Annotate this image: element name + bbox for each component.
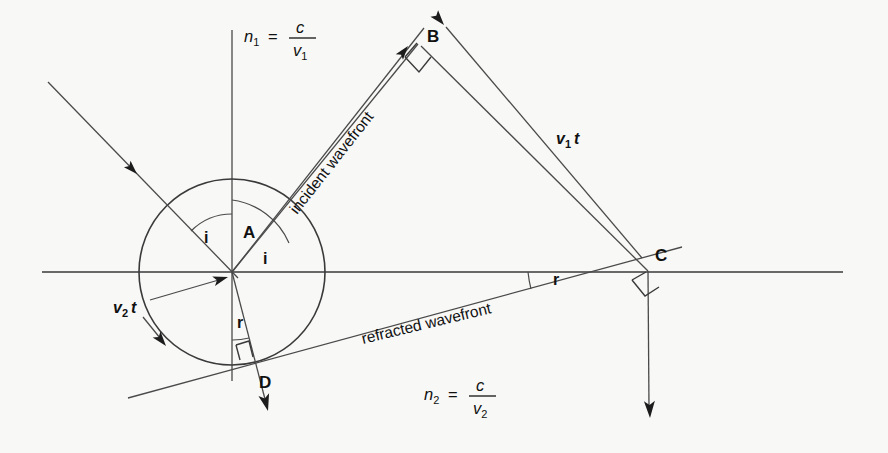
refraction-diagram-canvas: A B C D i i r r incident wavefront refra… [0, 0, 888, 453]
refracted-ray-at-C-arrowhead [644, 401, 656, 418]
incident-ray-to-B-line [232, 28, 424, 272]
v1t-measure-arrow-line [446, 27, 642, 258]
formula-n1-group: n1 = c v1 [244, 18, 316, 62]
refracted-wavefront-label-group: refracted wavefront [360, 299, 494, 347]
v1t-suffix: t [574, 130, 580, 147]
angle-label-i-right: i [263, 250, 267, 267]
formula-n2-equals: = [448, 385, 458, 403]
formula-n2-group: n2 = c v2 [424, 376, 496, 420]
v1t-subscript: 1 [565, 138, 571, 150]
point-label-A: A [243, 223, 255, 242]
angle-label-r-right: r [553, 271, 559, 288]
formula-n2-denominator: v2 [473, 399, 487, 420]
point-label-B: B [427, 27, 439, 46]
refracted-ray-at-C-line [648, 271, 649, 409]
v1t-measure-arrowhead [430, 10, 447, 28]
refracted-ray-AD-arrowhead [258, 393, 273, 412]
incident-wavefront-label: incident wavefront [286, 108, 377, 217]
refraction-diagram-figure: A B C D i i r r incident wavefront refra… [0, 0, 888, 453]
formula-n1-symbol: n1 [244, 27, 259, 48]
angle-arc-r-left [232, 338, 249, 340]
v1t-label-group: v1t [556, 130, 580, 150]
formula-n2-symbol: n2 [424, 385, 439, 406]
angle-label-i-left: i [204, 229, 208, 246]
v2t-subscript: 2 [122, 307, 128, 319]
formula-n2-numerator: c [476, 376, 485, 394]
v2t-label: v2t [113, 299, 137, 319]
segment-B-to-C-line [421, 46, 648, 271]
v1t-label: v1t [556, 130, 580, 150]
right-angle-marker-at-C [632, 272, 659, 296]
angle-label-r-left: r [237, 314, 243, 331]
point-label-C: C [655, 246, 667, 265]
formula-n1-numerator: c [296, 18, 305, 36]
v2t-arrow-to-circle-head [153, 331, 170, 349]
angle-arc-r-right [528, 272, 531, 289]
incident-wavefront-label-group: incident wavefront [286, 108, 377, 217]
refracted-wavefront-label: refracted wavefront [360, 299, 494, 347]
v2t-arrow-to-center-head [212, 272, 229, 286]
formula-n1-denominator: v1 [293, 41, 307, 62]
incident-ray-line [48, 82, 238, 278]
angle-arc-i-left [191, 214, 232, 231]
formula-n1-equals: = [268, 27, 278, 45]
v2t-label-group: v2t [113, 299, 137, 319]
point-label-D: D [259, 373, 271, 392]
v2t-suffix: t [131, 299, 137, 316]
v2t-arrow-to-center-line [150, 279, 222, 300]
